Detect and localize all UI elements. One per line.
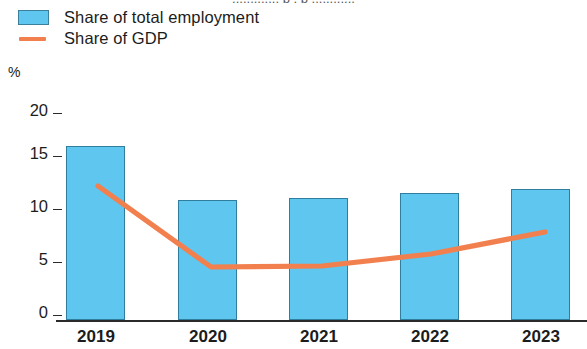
y-tick-15: 15 [0, 144, 62, 162]
x-tick-label-2020: 2020 [173, 327, 243, 347]
y-tick-dash-20 [53, 113, 62, 114]
x-tick-label-2021: 2021 [284, 327, 354, 347]
x-tick-label-2023: 2023 [506, 327, 576, 347]
y-tick-20: 20 [0, 101, 62, 119]
y-tick-dash-10 [53, 209, 62, 210]
x-tick-label-2022: 2022 [395, 327, 465, 347]
y-tick-0: 0 [0, 303, 62, 321]
legend-item-employment: Share of total employment [18, 7, 438, 28]
chart-figure: ............. p . p ............ Share o… [0, 0, 587, 349]
y-tick-dash-0 [53, 315, 62, 316]
y-tick-10: 10 [0, 197, 62, 215]
x-tick-label-2019: 2019 [61, 327, 131, 347]
bar-2020 [178, 200, 237, 320]
y-tick-dash-5 [53, 262, 62, 263]
legend-label-employment: Share of total employment [64, 8, 259, 27]
y-tick-5: 5 [0, 250, 62, 268]
chart-legend: Share of total employment Share of GDP [18, 7, 438, 49]
bar-2023 [511, 189, 570, 320]
bar-2022 [400, 193, 459, 320]
bar-2019 [66, 146, 125, 320]
legend-item-gdp: Share of GDP [18, 28, 438, 49]
legend-label-gdp: Share of GDP [64, 29, 168, 48]
y-tick-dash-15 [53, 156, 62, 157]
clipped-title: ............. p . p ............ [0, 0, 587, 3]
bar-2021 [289, 198, 348, 320]
y-axis: 20 15 10 5 0 [0, 0, 62, 349]
x-axis-baseline [56, 320, 587, 322]
